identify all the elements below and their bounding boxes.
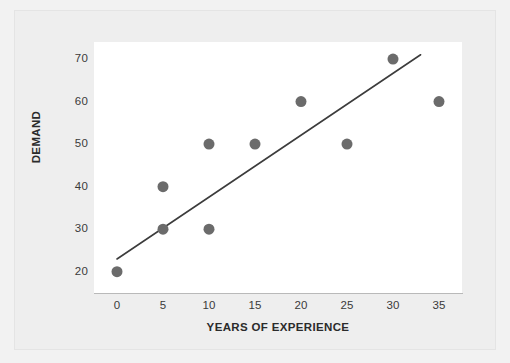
data-point <box>158 224 169 235</box>
data-point <box>204 139 215 150</box>
data-point <box>112 266 123 277</box>
y-tick-label: 50 <box>62 138 88 149</box>
y-tick-label: 60 <box>62 96 88 107</box>
x-tick-label: 15 <box>240 299 270 311</box>
x-tick-label: 35 <box>424 299 454 311</box>
y-tick-label: 70 <box>62 53 88 64</box>
x-tick-label: 10 <box>194 299 224 311</box>
x-axis-title: YEARS OF EXPERIENCE <box>94 321 462 333</box>
y-axis-tick-labels: 203040506070 <box>60 0 88 363</box>
data-point <box>204 224 215 235</box>
data-point <box>388 54 399 65</box>
x-axis-spine <box>94 293 463 294</box>
data-points-group <box>112 54 445 278</box>
y-tick-label: 40 <box>62 181 88 192</box>
plot-area <box>94 42 462 293</box>
y-axis-title: DEMAND <box>30 97 42 177</box>
x-tick-label: 0 <box>102 299 132 311</box>
y-tick-label: 20 <box>62 266 88 277</box>
data-point <box>250 139 261 150</box>
x-tick-label: 25 <box>332 299 362 311</box>
data-point <box>296 96 307 107</box>
data-point <box>158 181 169 192</box>
data-point <box>342 139 353 150</box>
data-point <box>434 96 445 107</box>
x-tick-label: 5 <box>148 299 178 311</box>
scatter-chart-figure: 203040506070 YEARS OF EXPERIENCE DEMAND … <box>0 0 510 363</box>
plot-canvas <box>94 42 462 293</box>
y-tick-label: 30 <box>62 223 88 234</box>
x-tick-label: 20 <box>286 299 316 311</box>
x-tick-label: 30 <box>378 299 408 311</box>
